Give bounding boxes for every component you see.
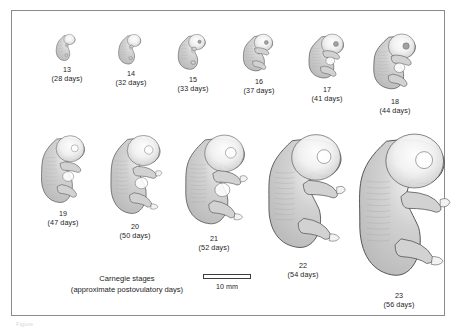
embryo-illustration-stage-21 [178, 135, 250, 233]
specimen-stage-16: 16(37 days) [230, 33, 288, 75]
embryo-illustration-stage-15 [173, 33, 213, 73]
stage-days: (32 days) [102, 78, 160, 87]
stage-number: 14 [102, 69, 160, 78]
stage-days: (54 days) [260, 270, 346, 279]
embryo-illustration-stage-19 [35, 135, 91, 209]
specimen-label-stage-16: 16(37 days) [230, 77, 288, 96]
stage-number: 19 [34, 209, 92, 218]
specimen-stage-20: 20(50 days) [104, 135, 166, 221]
specimen-stage-13: 13(28 days) [38, 33, 96, 63]
figure-frame: 13(28 days)14(32 days)15(33 days)16(37 d… [11, 10, 445, 316]
specimen-stage-22: 22(54 days) [260, 135, 346, 259]
specimen-label-stage-21: 21(52 days) [178, 234, 250, 253]
stage-days: (47 days) [34, 218, 92, 227]
specimen-label-stage-13: 13(28 days) [38, 65, 96, 84]
stage-days: (41 days) [298, 94, 356, 103]
stage-number: 17 [298, 85, 356, 94]
stage-days: (33 days) [164, 84, 222, 93]
scale-bar [203, 274, 251, 279]
caption-line-1: Carnegie stages [50, 273, 204, 284]
stage-days: (50 days) [104, 231, 166, 240]
stage-number: 23 [350, 291, 448, 300]
specimen-label-stage-22: 22(54 days) [260, 261, 346, 280]
stage-days: (37 days) [230, 86, 288, 95]
specimen-stage-19: 19(47 days) [34, 135, 92, 209]
stage-number: 16 [230, 77, 288, 86]
stage-number: 18 [366, 97, 424, 106]
stage-days: (52 days) [178, 243, 250, 252]
embryo-illustration-stage-17 [303, 33, 351, 83]
embryo-illustration-stage-13 [52, 33, 82, 63]
stage-number: 22 [260, 261, 346, 270]
specimen-stage-14: 14(32 days) [102, 33, 160, 67]
embryo-illustration-stage-16 [238, 33, 280, 75]
embryo-illustration-stage-22 [260, 135, 346, 259]
embryo-illustration-stage-20 [104, 135, 166, 221]
specimen-label-stage-17: 17(41 days) [298, 85, 356, 104]
stage-days: (56 days) [350, 300, 448, 309]
embryo-illustration-stage-14 [114, 33, 148, 67]
caption-line-2: (approximate postovulatory days) [50, 284, 204, 295]
embryo-illustration-stage-18 [367, 33, 423, 95]
specimen-stage-21: 21(52 days) [178, 135, 250, 233]
stage-number: 13 [38, 65, 96, 74]
below-frame-caption-fragment: Figure [16, 321, 33, 327]
specimen-stage-23: 23(56 days) [350, 135, 448, 289]
specimen-label-stage-14: 14(32 days) [102, 69, 160, 88]
specimen-label-stage-20: 20(50 days) [104, 222, 166, 241]
specimen-stage-17: 17(41 days) [298, 33, 356, 83]
specimen-label-stage-23: 23(56 days) [350, 291, 448, 310]
figure-caption: Carnegie stages (approximate postovulato… [50, 273, 204, 295]
specimen-label-stage-15: 15(33 days) [164, 75, 222, 94]
stage-number: 20 [104, 222, 166, 231]
scale-bar-group: 10 mm [193, 274, 261, 291]
stage-number: 21 [178, 234, 250, 243]
specimen-stage-18: 18(44 days) [366, 33, 424, 95]
stage-number: 15 [164, 75, 222, 84]
specimen-label-stage-19: 19(47 days) [34, 209, 92, 228]
specimen-label-stage-18: 18(44 days) [366, 97, 424, 116]
stage-days: (28 days) [38, 74, 96, 83]
specimen-stage-15: 15(33 days) [164, 33, 222, 73]
stage-days: (44 days) [366, 106, 424, 115]
embryo-illustration-stage-23 [350, 135, 448, 289]
scale-bar-label: 10 mm [193, 282, 261, 291]
